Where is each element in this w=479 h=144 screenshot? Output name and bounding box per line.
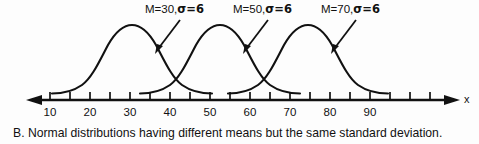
tick-label-70: 70 bbox=[284, 106, 297, 118]
annotation-mean-m30: M=30, bbox=[145, 3, 177, 15]
axis-arrow-right bbox=[444, 95, 460, 105]
annotation-mean-m70: M=70, bbox=[321, 3, 353, 15]
tick-label-50: 50 bbox=[204, 106, 217, 118]
normal-distributions-figure: M=30,σ=6 M=50,σ=6 M=70,σ=6 10 20 30 40 5… bbox=[0, 0, 479, 144]
annotation-label-m50: M=50,σ=6 bbox=[233, 3, 292, 16]
curve-group bbox=[52, 25, 388, 94]
axis-arrow-left bbox=[26, 95, 42, 105]
tick-label-20: 20 bbox=[84, 106, 97, 118]
x-axis bbox=[26, 95, 460, 105]
annotation-label-m70: M=70,σ=6 bbox=[321, 3, 380, 16]
annotation-sigma-m70: σ=6 bbox=[353, 2, 380, 16]
tick-label-10: 10 bbox=[44, 106, 57, 118]
tick-label-40: 40 bbox=[164, 106, 177, 118]
tick-label-30: 30 bbox=[124, 106, 137, 118]
annotation-sigma-m50: σ=6 bbox=[265, 2, 292, 16]
figure-caption: B. Normal distributions having different… bbox=[13, 126, 442, 140]
tick-label-80: 80 bbox=[324, 106, 337, 118]
annotation-sigma-m30: σ=6 bbox=[177, 2, 204, 16]
distribution-plot bbox=[0, 0, 479, 144]
arrow-line-m50 bbox=[246, 20, 268, 49]
annotation-mean-m50: M=50, bbox=[233, 3, 265, 15]
annotation-label-m30: M=30,σ=6 bbox=[145, 3, 204, 16]
tick-label-60: 60 bbox=[244, 106, 257, 118]
x-axis-label: x bbox=[464, 93, 470, 105]
tick-label-90: 90 bbox=[364, 106, 377, 118]
arrow-line-m70 bbox=[334, 20, 356, 49]
arrow-line-m30 bbox=[158, 20, 180, 49]
